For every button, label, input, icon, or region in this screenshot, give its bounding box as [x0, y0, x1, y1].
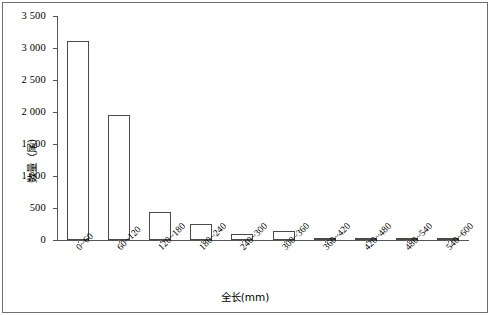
y-axis-tick-label: 1 500: [21, 139, 46, 150]
y-axis-tick: [53, 112, 57, 113]
y-axis-tick-label: 3 000: [21, 43, 46, 54]
y-axis-tick: [53, 240, 57, 241]
bar: [108, 115, 130, 240]
y-axis-tick: [53, 208, 57, 209]
y-axis-tick-label: 500: [30, 203, 46, 214]
y-axis-tick-label: 0: [41, 235, 46, 246]
y-axis-tick: [53, 48, 57, 49]
y-axis-tick-label: 3 500: [21, 11, 46, 22]
x-axis-title: 全长(mm): [0, 289, 490, 304]
y-axis-tick: [53, 144, 57, 145]
chart-figure: 数量（尾） 05001 0001 5002 0002 5003 0003 500…: [0, 0, 490, 315]
bar: [67, 41, 89, 240]
y-axis-tick: [53, 16, 57, 17]
y-axis-tick: [53, 176, 57, 177]
y-axis-tick-label: 1 000: [21, 171, 46, 182]
y-axis-line: [57, 16, 58, 240]
y-axis-tick-label: 2 000: [21, 107, 46, 118]
y-axis-tick: [53, 80, 57, 81]
y-axis-tick-label: 2 500: [21, 75, 46, 86]
plot-area: 05001 0001 5002 0002 5003 0003 500: [57, 16, 469, 240]
